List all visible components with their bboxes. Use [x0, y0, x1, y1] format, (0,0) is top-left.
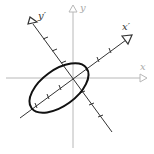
- x-axis: [6, 74, 147, 82]
- x-axis-arrow-icon: [140, 74, 147, 82]
- x-prime-label: x′: [122, 21, 131, 32]
- diagram-canvas: y x y′ x′: [0, 0, 154, 154]
- y-prime-arrow-icon: [28, 17, 37, 24]
- ellipse: [21, 53, 97, 122]
- diagram-svg: y x y′ x′: [0, 0, 154, 154]
- y-axis-arrow-icon: [69, 5, 77, 12]
- x-label: x: [140, 61, 146, 72]
- y-prime-label: y′: [37, 10, 47, 21]
- x-prime-arrow-icon: [122, 35, 132, 44]
- x-prime-axis: [20, 35, 132, 118]
- y-prime-axis: [28, 17, 112, 132]
- y-label: y: [79, 2, 86, 13]
